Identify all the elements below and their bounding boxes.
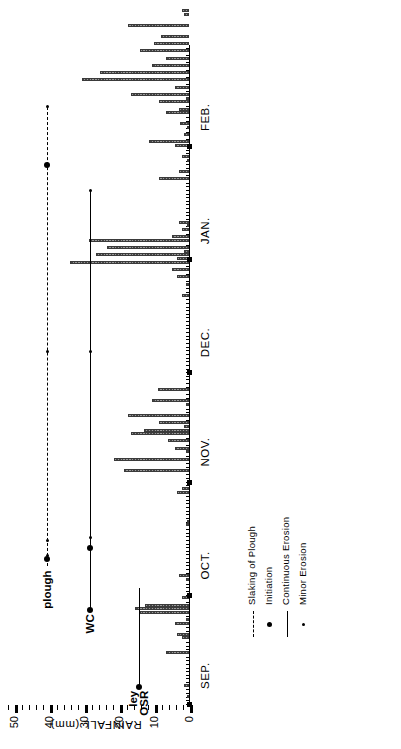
tick-mark bbox=[36, 705, 37, 710]
rainfall-bar bbox=[179, 221, 190, 224]
rainfall-axis-title: RAINFALL (mm) bbox=[26, 719, 166, 731]
rainfall-bar bbox=[96, 254, 189, 257]
rainfall-bar bbox=[179, 574, 190, 577]
solid-line bbox=[139, 588, 140, 686]
rainfall-bar bbox=[166, 651, 189, 654]
day-tick bbox=[186, 201, 190, 202]
day-tick bbox=[186, 350, 190, 351]
tick-mark bbox=[176, 705, 177, 710]
rainfall-bar bbox=[182, 155, 189, 158]
day-tick bbox=[186, 332, 190, 333]
rainfall-bar bbox=[175, 447, 189, 450]
dashed-line bbox=[47, 107, 48, 566]
month-marker bbox=[187, 702, 192, 707]
day-tick bbox=[186, 343, 190, 344]
rainfall-bar bbox=[179, 170, 190, 173]
rainfall-bar bbox=[184, 684, 189, 687]
day-tick bbox=[186, 321, 190, 322]
rainfall-axis: 01020304050 RAINFALL (mm) bbox=[8, 705, 190, 749]
tick-mark bbox=[29, 705, 30, 710]
tick-mark bbox=[15, 705, 18, 713]
day-tick bbox=[186, 394, 190, 395]
day-tick bbox=[186, 657, 190, 658]
day-tick bbox=[186, 409, 190, 410]
rainfall-bar bbox=[140, 49, 189, 52]
day-tick bbox=[186, 675, 190, 676]
rainfall-tick-label: 0 bbox=[184, 716, 195, 738]
day-tick bbox=[186, 204, 190, 205]
day-tick bbox=[186, 314, 190, 315]
day-tick bbox=[186, 668, 190, 669]
tick-mark bbox=[22, 705, 23, 710]
day-tick bbox=[186, 164, 190, 165]
day-tick bbox=[186, 533, 190, 534]
legend-label: Continuous Erosion bbox=[280, 517, 291, 605]
rainfall-bar bbox=[186, 523, 190, 526]
tick-mark bbox=[162, 705, 163, 710]
rainfall-bar bbox=[82, 78, 189, 81]
rainfall-minor-tick bbox=[183, 705, 184, 749]
initiation-marker bbox=[136, 684, 142, 690]
day-tick bbox=[186, 562, 190, 563]
month-label: NOV. bbox=[199, 438, 211, 467]
timeline-ley-osr bbox=[139, 588, 141, 686]
tick-mark bbox=[50, 705, 53, 713]
rainfall-bar bbox=[107, 246, 189, 249]
rainfall-bar bbox=[159, 100, 189, 103]
rainfall-minor-tick bbox=[176, 705, 177, 749]
rainfall-bar bbox=[186, 450, 190, 453]
rainfall-bar bbox=[89, 239, 189, 242]
rainfall-bar bbox=[152, 399, 189, 402]
month-label: JAN. bbox=[199, 217, 211, 244]
day-tick bbox=[186, 325, 190, 326]
day-tick bbox=[186, 197, 190, 198]
day-tick bbox=[186, 383, 190, 384]
rainfall-bar bbox=[186, 403, 190, 406]
rainfall-bar bbox=[131, 432, 189, 435]
rainfall-bar bbox=[168, 439, 189, 442]
day-tick bbox=[186, 317, 190, 318]
large-dot-icon bbox=[267, 622, 272, 627]
minor-erosion-marker bbox=[46, 554, 49, 557]
day-tick bbox=[186, 511, 190, 512]
day-tick bbox=[186, 117, 190, 118]
rainfall-major-tick: 0 bbox=[190, 705, 191, 749]
tick-mark bbox=[113, 705, 114, 710]
month-marker bbox=[187, 257, 192, 262]
rainfall-bar bbox=[177, 633, 189, 636]
legend-label: Slaking of Plough bbox=[246, 526, 257, 605]
tick-mark bbox=[155, 705, 158, 713]
day-tick bbox=[186, 310, 190, 311]
timeline-label: WC bbox=[84, 614, 96, 658]
rainfall-bar bbox=[154, 42, 189, 45]
rainfall-bar bbox=[70, 261, 189, 264]
timeline-wc bbox=[90, 191, 92, 610]
rainfall-bar bbox=[175, 86, 189, 89]
timeline-plough bbox=[47, 107, 49, 566]
figure-page: 01020304050 RAINFALL (mm) SEP.OCT.NOV.DE… bbox=[0, 0, 401, 749]
rainfall-bar bbox=[166, 57, 189, 60]
day-tick bbox=[186, 215, 190, 216]
rainfall-bar bbox=[182, 228, 189, 231]
day-tick bbox=[186, 555, 190, 556]
day-tick bbox=[186, 358, 190, 359]
month-label: OCT. bbox=[199, 551, 211, 579]
rainfall-bar bbox=[186, 283, 190, 286]
tick-mark bbox=[71, 705, 72, 710]
day-tick bbox=[186, 496, 190, 497]
minor-erosion-marker bbox=[46, 350, 49, 353]
day-tick bbox=[186, 186, 190, 187]
day-tick bbox=[186, 194, 190, 195]
day-tick bbox=[186, 507, 190, 508]
rainfall-bar bbox=[135, 607, 189, 610]
day-tick bbox=[186, 190, 190, 191]
day-tick bbox=[186, 503, 190, 504]
rainfall-bar bbox=[180, 122, 189, 125]
day-tick bbox=[186, 307, 190, 308]
month-label: FEB. bbox=[199, 104, 211, 132]
day-tick bbox=[186, 536, 190, 537]
solid-line-icon bbox=[287, 611, 288, 637]
rainfall-tick-label: 50 bbox=[9, 716, 20, 738]
rainfall-minor-tick bbox=[22, 705, 23, 749]
day-tick bbox=[186, 463, 190, 464]
